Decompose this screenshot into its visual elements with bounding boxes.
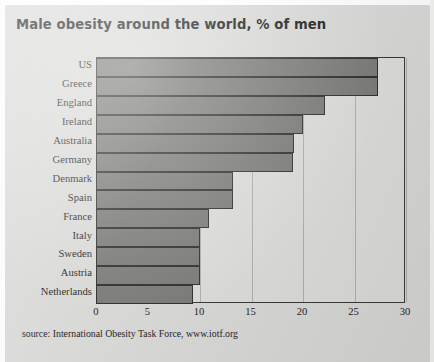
chart-page: Male obesity around the world, % of men … xyxy=(0,0,434,362)
bar-row xyxy=(97,153,406,172)
x-tick-label: 0 xyxy=(93,306,98,317)
category-label: Austria xyxy=(0,267,92,278)
category-label: US xyxy=(0,59,92,70)
x-tick-label: 10 xyxy=(194,306,205,317)
page-title: Male obesity around the world, % of men xyxy=(16,17,326,32)
plot-area xyxy=(96,57,405,303)
bar xyxy=(96,77,378,96)
category-label: Sweden xyxy=(0,248,92,259)
x-tick-label: 30 xyxy=(400,306,411,317)
page-margin-top xyxy=(0,0,434,5)
bar-row xyxy=(97,77,406,96)
x-tick-label: 25 xyxy=(348,306,359,317)
bar-row xyxy=(97,190,406,209)
x-tick-label: 20 xyxy=(297,306,308,317)
bar xyxy=(96,172,233,191)
category-label: Denmark xyxy=(0,173,92,184)
category-label: England xyxy=(0,97,92,108)
bar-row xyxy=(97,209,406,228)
category-label: Greece xyxy=(0,78,92,89)
bar xyxy=(96,209,209,228)
bar-row xyxy=(97,285,406,304)
bar-row xyxy=(97,247,406,266)
bar-row xyxy=(97,134,406,153)
category-label: Ireland xyxy=(0,116,92,127)
bar-row xyxy=(97,172,406,191)
bar xyxy=(96,190,233,209)
category-label: Italy xyxy=(0,230,92,241)
bar xyxy=(96,115,303,134)
gridline xyxy=(406,58,407,302)
bar xyxy=(96,134,294,153)
bar xyxy=(96,58,378,77)
bar-row xyxy=(97,228,406,247)
category-label: Germany xyxy=(0,154,92,165)
category-label: France xyxy=(0,211,92,222)
category-label: Netherlands xyxy=(0,286,92,297)
x-axis-tick-labels: 051015202530 xyxy=(96,306,405,322)
category-label: Spain xyxy=(0,192,92,203)
category-label: Australia xyxy=(0,135,92,146)
bar-row xyxy=(97,58,406,77)
bar xyxy=(96,247,200,266)
bar xyxy=(96,228,200,247)
bar xyxy=(96,285,193,304)
plot-inner xyxy=(97,58,404,302)
source-note: source: International Obesity Task Force… xyxy=(22,328,238,339)
bar xyxy=(96,266,200,285)
x-tick-label: 5 xyxy=(145,306,150,317)
x-tick-label: 15 xyxy=(245,306,256,317)
bar-row xyxy=(97,266,406,285)
bar-row xyxy=(97,115,406,134)
page-margin-left xyxy=(0,0,5,362)
bar xyxy=(96,96,325,115)
bar xyxy=(96,153,293,172)
bar-row xyxy=(97,96,406,115)
page-margin-right xyxy=(430,0,434,362)
